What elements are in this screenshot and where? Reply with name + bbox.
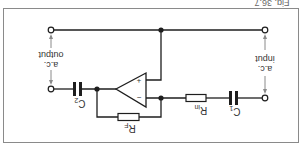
output-arrowhead-bottom [49,80,53,85]
c2-plate-right [79,82,82,96]
input-label-line1: a.c. [258,64,273,74]
rf-label: RF [124,122,136,134]
output-terminal-common [48,27,54,33]
plus-sign: + [136,76,141,85]
feedback-wire-left [97,89,118,117]
input-arrowhead-top [263,34,267,39]
noninverting-input-wire [146,30,161,80]
rf-resistor [118,114,139,121]
figure-frame [4,9,299,143]
input-arrowhead-bottom [263,89,267,94]
input-terminal [262,95,268,101]
input-label-line2: input [255,54,275,64]
c2-label: C2 [74,97,85,109]
figure-caption: Fig. 36.7 [254,0,289,8]
minus-sign: − [136,93,141,102]
input-terminal-common [262,27,268,33]
output-label-line1: a.c. [44,60,59,70]
circuit-diagram: Fig. 36.7 + − C2 RF Rin C1 [0,0,300,146]
output-label-line2: output [38,50,64,60]
inverting-junction-dot [158,95,163,100]
c1-plate-right [235,91,238,105]
c1-label: C1 [229,105,240,117]
rin-label: Rin [195,104,208,116]
rin-resistor [186,95,206,102]
c1-plate-left [229,91,232,105]
output-terminal [48,86,54,92]
output-arrowhead-top [49,34,53,39]
c2-plate-left [73,82,76,96]
